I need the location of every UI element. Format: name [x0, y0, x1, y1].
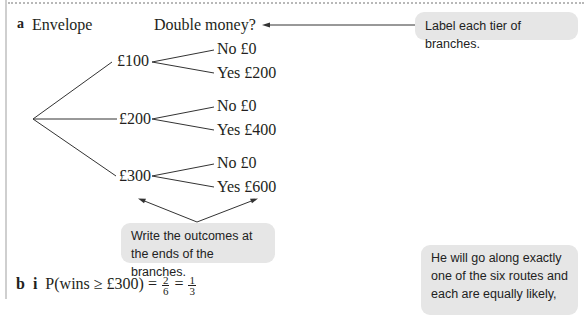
part-b-i-label: i — [33, 275, 37, 292]
callout-six-routes: He will go along exactly one of the six … — [421, 245, 578, 315]
header-double-money: Double money? — [154, 16, 256, 34]
callout-label-tiers: Label each tier of branches. — [415, 12, 578, 40]
part-b-label: b — [16, 275, 25, 292]
callout-text-line: one of the six routes and — [431, 267, 568, 285]
outcome-no: No £0 — [217, 154, 257, 172]
outcome-yes: Yes £200 — [217, 64, 276, 82]
envelope-node-100: £100 — [117, 52, 149, 70]
header-envelope: Envelope — [32, 16, 92, 34]
envelope-node-300: £300 — [119, 167, 151, 185]
fraction-two-sixths: 26 — [162, 275, 170, 296]
callout-text-line: Write the outcomes at — [131, 227, 265, 245]
outcome-no: No £0 — [217, 40, 257, 58]
callout-text-line: He will go along exactly — [431, 249, 568, 267]
callout-text-line: each are equally likely, — [431, 285, 568, 303]
part-a-label: a — [17, 15, 24, 33]
outcome-no: No £0 — [217, 97, 257, 115]
probability-expression: P(wins ≥ £300) = — [45, 275, 157, 292]
outcome-yes: Yes £400 — [217, 121, 276, 139]
fraction-one-third: 13 — [188, 275, 196, 296]
outcome-yes: Yes £600 — [217, 178, 276, 196]
equals-sign: = — [174, 275, 183, 292]
part-b-line: b i P(wins ≥ £300) = 26 = 13 — [16, 275, 197, 296]
callout-write-outcomes: Write the outcomes at the ends of the br… — [121, 223, 275, 263]
envelope-node-200: £200 — [119, 110, 151, 128]
